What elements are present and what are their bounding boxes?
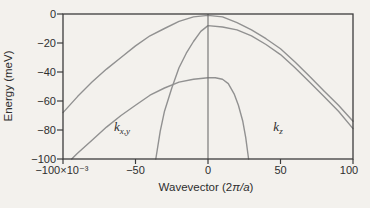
x-tick-0: 0 [205,164,211,176]
band-structure-figure: 0 −20 −40 −60 −80 −100 −100×10⁻³ −50 0 5… [0,0,370,208]
y-tick-20: −20 [37,37,56,49]
x-tick-m100: −100×10⁻³ [35,164,88,176]
dispersion-chart: 0 −20 −40 −60 −80 −100 −100×10⁻³ −50 0 5… [0,0,370,208]
x-tick-50: 50 [274,164,286,176]
y-tick-100: −100 [31,153,56,165]
y-tick-0: 0 [50,8,56,20]
y-axis-title: Energy (meV) [2,50,14,121]
y-tick-80: −80 [37,124,56,136]
y-tick-40: −40 [37,66,56,78]
x-tick-100: 100 [340,164,358,176]
x-axis-title: Wavevector (2π/a) [159,181,254,193]
y-tick-60: −60 [37,95,56,107]
x-tick-m50: −50 [126,164,145,176]
